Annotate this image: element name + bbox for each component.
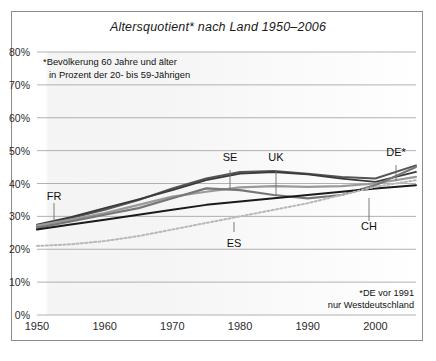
- x-axis-tick-label: 1960: [83, 320, 127, 332]
- series-label-es: ES: [227, 237, 242, 249]
- plot-area: [0, 0, 436, 361]
- gridlines: [37, 52, 416, 315]
- y-axis-tick-label: 80%: [0, 46, 30, 58]
- series-label-ch: CH: [361, 220, 377, 232]
- x-axis-tick-label: 2000: [353, 320, 397, 332]
- y-axis-tick-label: 30%: [0, 210, 30, 222]
- series-label-de: DE*: [386, 146, 406, 158]
- series-line-ch: [37, 185, 416, 229]
- series-label-fr: FR: [47, 190, 62, 202]
- y-axis-tick-label: 70%: [0, 79, 30, 91]
- series-lines: [37, 165, 416, 246]
- y-axis-tick-label: 50%: [0, 145, 30, 157]
- x-axis-tick-label: 1990: [286, 320, 330, 332]
- y-axis-tick-label: 60%: [0, 112, 30, 124]
- y-axis-tick-label: 40%: [0, 178, 30, 190]
- x-axis-tick-label: 1950: [15, 320, 59, 332]
- x-axis-tick-label: 1970: [150, 320, 194, 332]
- y-axis-tick-label: 20%: [0, 243, 30, 255]
- series-label-se: SE: [223, 151, 238, 163]
- series-label-uk: UK: [268, 151, 283, 163]
- chart-screenshot: Altersquotient* nach Land 1950–2006 *Bev…: [0, 0, 436, 361]
- x-axis-tick-label: 1980: [218, 320, 262, 332]
- y-axis-tick-label: 10%: [0, 276, 30, 288]
